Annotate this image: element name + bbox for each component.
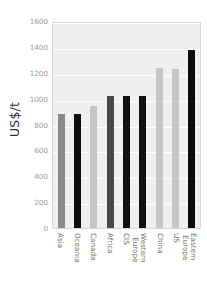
y-axis-tick-label: 400 bbox=[24, 174, 48, 181]
x-axis-tick-text: Africa bbox=[106, 233, 114, 254]
x-axis-tick-text: Western Europe bbox=[131, 233, 147, 262]
y-axis-ticks: 02004006008001000120014001600 bbox=[24, 0, 48, 286]
bar bbox=[172, 69, 179, 228]
y-axis-tick-label: 600 bbox=[24, 148, 48, 155]
x-axis-tick-label: Eastern Europe bbox=[189, 229, 196, 286]
bar bbox=[139, 96, 146, 228]
bar bbox=[58, 114, 65, 228]
x-axis-tick-label: CIS bbox=[123, 229, 130, 286]
plot-area bbox=[52, 22, 201, 229]
x-axis-tick-label: China bbox=[156, 229, 163, 286]
bar bbox=[74, 114, 81, 228]
bar bbox=[90, 106, 97, 228]
x-axis-tick-label: Oceania bbox=[73, 229, 80, 286]
y-axis-title: US$/t bbox=[7, 84, 22, 156]
bar bbox=[123, 96, 130, 228]
x-axis-tick-text: China bbox=[156, 233, 164, 254]
bar-chart: US$/t 02004006008001000120014001600 Asia… bbox=[0, 0, 207, 286]
x-axis-ticks: AsiaOceaniaCanadaAfricaCISWestern Europe… bbox=[52, 229, 201, 286]
bar bbox=[188, 50, 195, 228]
bar-series bbox=[53, 23, 200, 228]
y-axis-tick-label: 1400 bbox=[24, 44, 48, 51]
x-axis-tick-label: Canada bbox=[90, 229, 97, 286]
y-axis-tick-label: 1000 bbox=[24, 96, 48, 103]
x-axis-tick-label: Africa bbox=[106, 229, 113, 286]
x-axis-tick-label: Western Europe bbox=[140, 229, 147, 286]
x-axis-tick-text: Canada bbox=[89, 233, 97, 260]
y-axis-tick-label: 800 bbox=[24, 122, 48, 129]
y-axis-tick-label: 1200 bbox=[24, 70, 48, 77]
x-axis-tick-text: Oceania bbox=[73, 233, 81, 262]
x-axis-tick-text: CIS bbox=[122, 233, 130, 245]
x-axis-tick-text: Eastern Europe bbox=[181, 233, 197, 260]
y-axis-tick-label: 200 bbox=[24, 200, 48, 207]
bar bbox=[107, 96, 114, 228]
x-axis-tick-text: Asia bbox=[56, 233, 64, 248]
y-axis-tick-label: 1600 bbox=[24, 18, 48, 25]
bar bbox=[156, 68, 163, 228]
x-axis-tick-label: US bbox=[173, 229, 180, 286]
x-axis-tick-text: US bbox=[172, 233, 180, 243]
x-axis-tick-label: Asia bbox=[57, 229, 64, 286]
y-axis-tick-label: 0 bbox=[24, 225, 48, 232]
